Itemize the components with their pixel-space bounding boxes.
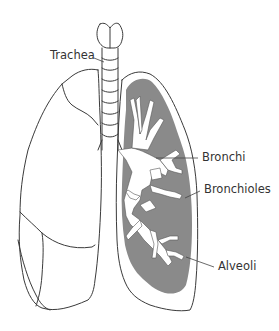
trachea-label: Trachea: [50, 50, 95, 62]
bronchioles-label: Bronchioles: [204, 184, 271, 196]
lung-diagram: Trachea Bronchi Bronchioles Alveoli: [0, 0, 279, 331]
left-lung: [18, 69, 101, 310]
lung-illustration: [0, 0, 279, 331]
alveoli-leader: [186, 257, 214, 267]
alveoli-label: Alveoli: [218, 261, 256, 273]
bronchi-label: Bronchi: [202, 152, 246, 164]
